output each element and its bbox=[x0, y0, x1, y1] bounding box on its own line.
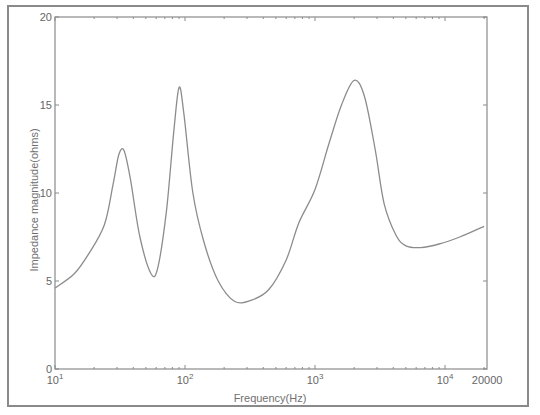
x-tick-label: 20000 bbox=[472, 374, 503, 386]
x-axis-label: Frequency(Hz) bbox=[234, 392, 307, 404]
plot-area: 05101520 10110210310420000 bbox=[40, 11, 503, 386]
x-tick-label: 101 bbox=[47, 372, 64, 386]
y-axis-label: Impedance magnitude(ohms) bbox=[28, 128, 40, 271]
x-tick-label: 104 bbox=[437, 372, 454, 386]
y-axis-ticks: 05101520 bbox=[40, 11, 487, 375]
y-tick-label: 20 bbox=[40, 11, 52, 23]
y-tick-label: 10 bbox=[40, 187, 52, 199]
axes-box bbox=[55, 17, 487, 369]
y-tick-label: 15 bbox=[40, 99, 52, 111]
y-tick-label: 5 bbox=[46, 275, 52, 287]
impedance-chart: 05101520 10110210310420000 Frequency(Hz)… bbox=[0, 0, 540, 415]
x-tick-label: 102 bbox=[177, 372, 194, 386]
impedance-curve bbox=[55, 80, 484, 303]
x-axis-ticks: 10110210310420000 bbox=[47, 17, 503, 386]
x-tick-label: 103 bbox=[307, 372, 324, 386]
